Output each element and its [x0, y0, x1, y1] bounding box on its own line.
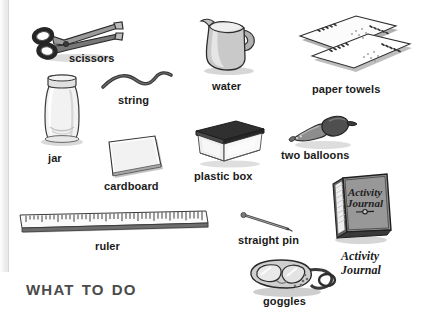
plastic-box-illustration	[190, 117, 270, 169]
page-gutter-rule	[8, 0, 9, 272]
caption-goggles: goggles	[263, 295, 306, 307]
caption-two-balloons: two balloons	[281, 149, 349, 161]
ruler-illustration	[18, 210, 210, 234]
straight-pin-icon	[238, 212, 296, 234]
journal-cover-line2: Journal	[346, 197, 384, 209]
balloons-icon	[285, 112, 361, 150]
caption-string: string	[118, 94, 149, 106]
goggles-icon	[243, 256, 339, 298]
caption-activity-journal-line2: Journal	[341, 264, 381, 276]
page-title: What to Do	[26, 276, 137, 300]
caption-jar: jar	[48, 152, 62, 164]
jar-icon	[36, 72, 88, 148]
pitcher-icon	[199, 14, 265, 76]
balloons-illustration	[285, 112, 361, 150]
jar-illustration	[36, 72, 88, 148]
caption-plastic-box: plastic box	[194, 170, 253, 182]
activity-journal-illustration: Activity Journal	[325, 172, 399, 248]
paper-towels-icon	[296, 12, 414, 78]
water-illustration	[199, 14, 265, 76]
string-icon	[100, 68, 174, 92]
paper-towels-illustration	[296, 12, 414, 78]
caption-water: water	[212, 80, 241, 92]
ruler-icon	[18, 210, 210, 234]
caption-paper-towels: paper towels	[312, 83, 380, 95]
caption-scissors: scissors	[69, 52, 114, 64]
materials-list-page: scissors string water	[0, 0, 425, 313]
cardboard-icon	[97, 132, 167, 180]
straight-pin-illustration	[238, 212, 296, 234]
journal-icon: Activity Journal	[325, 172, 399, 248]
caption-straight-pin: straight pin	[238, 234, 299, 246]
plastic-box-icon	[190, 117, 270, 169]
caption-activity-journal-line1: Activity	[341, 250, 379, 262]
cardboard-illustration	[97, 132, 167, 180]
string-illustration	[100, 68, 174, 92]
caption-cardboard: cardboard	[104, 180, 159, 192]
caption-ruler: ruler	[95, 240, 120, 252]
goggles-illustration	[243, 256, 339, 298]
